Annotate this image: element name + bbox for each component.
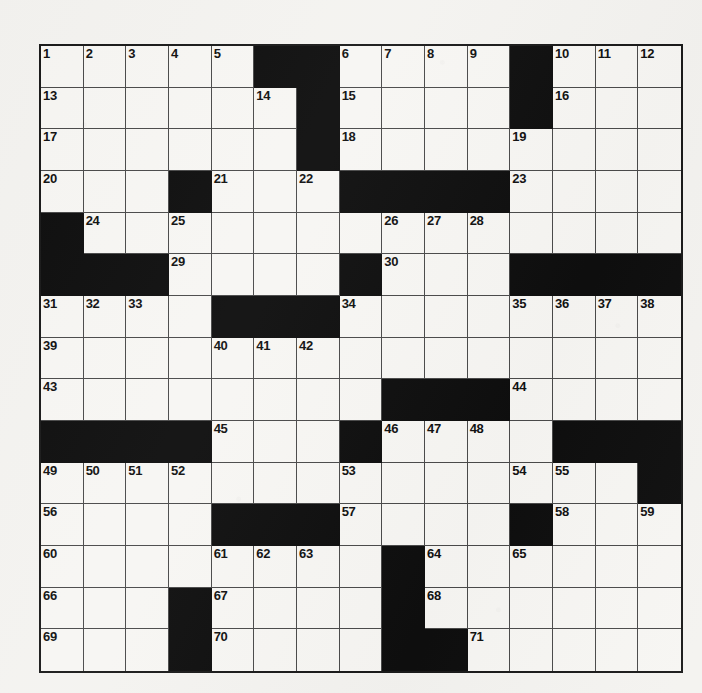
crossword-cell[interactable] bbox=[126, 129, 169, 171]
crossword-cell[interactable] bbox=[84, 129, 127, 171]
crossword-grid[interactable]: 1234567891011121314151617181920212223242… bbox=[39, 44, 683, 673]
crossword-cell[interactable] bbox=[84, 379, 127, 421]
crossword-cell[interactable] bbox=[596, 546, 639, 588]
crossword-cell[interactable] bbox=[84, 171, 127, 213]
crossword-cell[interactable] bbox=[638, 129, 681, 171]
crossword-cell[interactable] bbox=[468, 588, 511, 630]
crossword-cell[interactable] bbox=[254, 588, 297, 630]
crossword-cell[interactable] bbox=[126, 629, 169, 671]
crossword-cell[interactable] bbox=[382, 296, 425, 338]
crossword-cell[interactable] bbox=[510, 588, 553, 630]
crossword-cell[interactable] bbox=[169, 379, 212, 421]
crossword-cell[interactable] bbox=[638, 171, 681, 213]
crossword-cell[interactable] bbox=[169, 338, 212, 380]
crossword-cell[interactable]: 27 bbox=[425, 213, 468, 255]
crossword-cell[interactable]: 21 bbox=[212, 171, 255, 213]
crossword-cell[interactable]: 53 bbox=[340, 463, 383, 505]
crossword-cell[interactable] bbox=[468, 296, 511, 338]
crossword-cell[interactable]: 7 bbox=[382, 46, 425, 88]
crossword-cell[interactable] bbox=[468, 129, 511, 171]
crossword-cell[interactable] bbox=[553, 171, 596, 213]
crossword-cell[interactable]: 12 bbox=[638, 46, 681, 88]
crossword-cell[interactable] bbox=[84, 546, 127, 588]
crossword-cell[interactable] bbox=[254, 629, 297, 671]
crossword-cell[interactable]: 28 bbox=[468, 213, 511, 255]
crossword-cell[interactable]: 1 bbox=[41, 46, 84, 88]
crossword-cell[interactable] bbox=[553, 379, 596, 421]
crossword-cell[interactable] bbox=[169, 296, 212, 338]
crossword-cell[interactable]: 63 bbox=[297, 546, 340, 588]
crossword-cell[interactable] bbox=[382, 463, 425, 505]
crossword-cell[interactable]: 62 bbox=[254, 546, 297, 588]
crossword-cell[interactable] bbox=[425, 338, 468, 380]
crossword-cell[interactable]: 23 bbox=[510, 171, 553, 213]
crossword-cell[interactable]: 56 bbox=[41, 504, 84, 546]
crossword-cell[interactable]: 10 bbox=[553, 46, 596, 88]
crossword-cell[interactable] bbox=[425, 129, 468, 171]
crossword-cell[interactable] bbox=[596, 379, 639, 421]
crossword-cell[interactable] bbox=[84, 88, 127, 130]
crossword-cell[interactable]: 69 bbox=[41, 629, 84, 671]
crossword-cell[interactable] bbox=[468, 546, 511, 588]
crossword-cell[interactable]: 6 bbox=[340, 46, 383, 88]
crossword-cell[interactable] bbox=[126, 379, 169, 421]
crossword-cell[interactable]: 37 bbox=[596, 296, 639, 338]
crossword-cell[interactable]: 25 bbox=[169, 213, 212, 255]
crossword-cell[interactable]: 11 bbox=[596, 46, 639, 88]
crossword-cell[interactable] bbox=[596, 504, 639, 546]
crossword-cell[interactable] bbox=[212, 379, 255, 421]
crossword-cell[interactable]: 50 bbox=[84, 463, 127, 505]
crossword-cell[interactable]: 22 bbox=[297, 171, 340, 213]
crossword-cell[interactable] bbox=[510, 421, 553, 463]
crossword-cell[interactable] bbox=[297, 421, 340, 463]
crossword-cell[interactable] bbox=[84, 504, 127, 546]
crossword-cell[interactable]: 18 bbox=[340, 129, 383, 171]
crossword-cell[interactable]: 52 bbox=[169, 463, 212, 505]
crossword-cell[interactable]: 48 bbox=[468, 421, 511, 463]
crossword-cell[interactable]: 51 bbox=[126, 463, 169, 505]
crossword-cell[interactable]: 49 bbox=[41, 463, 84, 505]
crossword-cell[interactable]: 29 bbox=[169, 254, 212, 296]
crossword-cell[interactable]: 40 bbox=[212, 338, 255, 380]
crossword-cell[interactable]: 39 bbox=[41, 338, 84, 380]
crossword-cell[interactable] bbox=[553, 546, 596, 588]
crossword-cell[interactable] bbox=[468, 504, 511, 546]
crossword-cell[interactable]: 58 bbox=[553, 504, 596, 546]
crossword-cell[interactable]: 67 bbox=[212, 588, 255, 630]
crossword-cell[interactable]: 24 bbox=[84, 213, 127, 255]
crossword-cell[interactable] bbox=[510, 629, 553, 671]
crossword-cell[interactable] bbox=[169, 129, 212, 171]
crossword-cell[interactable] bbox=[169, 546, 212, 588]
crossword-cell[interactable] bbox=[553, 213, 596, 255]
crossword-cell[interactable] bbox=[638, 629, 681, 671]
crossword-cell[interactable] bbox=[596, 463, 639, 505]
crossword-cell[interactable] bbox=[596, 88, 639, 130]
crossword-cell[interactable]: 8 bbox=[425, 46, 468, 88]
crossword-cell[interactable]: 55 bbox=[553, 463, 596, 505]
crossword-cell[interactable] bbox=[84, 588, 127, 630]
crossword-cell[interactable] bbox=[553, 129, 596, 171]
crossword-cell[interactable] bbox=[382, 88, 425, 130]
crossword-cell[interactable] bbox=[126, 88, 169, 130]
crossword-cell[interactable] bbox=[425, 254, 468, 296]
crossword-cell[interactable]: 71 bbox=[468, 629, 511, 671]
crossword-cell[interactable]: 13 bbox=[41, 88, 84, 130]
crossword-cell[interactable] bbox=[468, 254, 511, 296]
crossword-cell[interactable] bbox=[468, 88, 511, 130]
crossword-cell[interactable]: 17 bbox=[41, 129, 84, 171]
crossword-cell[interactable] bbox=[212, 129, 255, 171]
crossword-cell[interactable] bbox=[596, 338, 639, 380]
crossword-cell[interactable] bbox=[297, 463, 340, 505]
crossword-cell[interactable] bbox=[468, 463, 511, 505]
crossword-cell[interactable] bbox=[254, 213, 297, 255]
crossword-cell[interactable]: 41 bbox=[254, 338, 297, 380]
crossword-cell[interactable]: 68 bbox=[425, 588, 468, 630]
crossword-cell[interactable] bbox=[212, 88, 255, 130]
crossword-cell[interactable] bbox=[126, 504, 169, 546]
crossword-cell[interactable]: 38 bbox=[638, 296, 681, 338]
crossword-cell[interactable]: 34 bbox=[340, 296, 383, 338]
crossword-cell[interactable] bbox=[382, 129, 425, 171]
crossword-cell[interactable] bbox=[596, 171, 639, 213]
crossword-cell[interactable]: 59 bbox=[638, 504, 681, 546]
crossword-cell[interactable]: 46 bbox=[382, 421, 425, 463]
